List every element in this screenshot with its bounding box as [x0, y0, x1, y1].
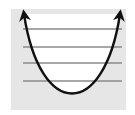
diagram-canvas	[0, 0, 135, 115]
